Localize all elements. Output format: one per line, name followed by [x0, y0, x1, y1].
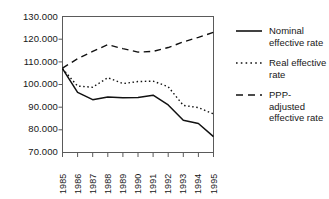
x-tick-label: 1985 [59, 174, 68, 194]
x-tick-label: 1987 [89, 174, 98, 194]
legend-label: Real effective rate [269, 57, 327, 80]
legend-item-real: Real effective rate [236, 57, 329, 80]
x-tick-label: 1989 [119, 174, 128, 194]
x-tick-label: 1993 [179, 174, 188, 194]
x-tick-label: 1994 [194, 174, 203, 194]
legend-label: Nominal effective rate [269, 25, 327, 48]
x-tick-label: 1995 [210, 174, 219, 194]
solid-line-key [236, 25, 262, 37]
chart-legend: Nominal effective rate Real effective ra… [236, 25, 329, 133]
x-tick-label: 1986 [74, 174, 83, 194]
legend-label: PPP-adjusted effective rate [269, 89, 327, 124]
x-tick-label: 1992 [164, 174, 173, 194]
legend-item-ppp: PPP-adjusted effective rate [236, 89, 329, 124]
x-tick-label: 1988 [104, 174, 113, 194]
x-tick-label: 1990 [134, 174, 143, 194]
dotted-line-key [236, 57, 262, 69]
chart-figure: 130.000 120.000 110.000 100.000 90.000 8… [0, 0, 329, 199]
x-tick-label: 1991 [149, 174, 158, 194]
legend-item-nominal: Nominal effective rate [236, 25, 329, 48]
dashed-line-key [236, 89, 262, 101]
